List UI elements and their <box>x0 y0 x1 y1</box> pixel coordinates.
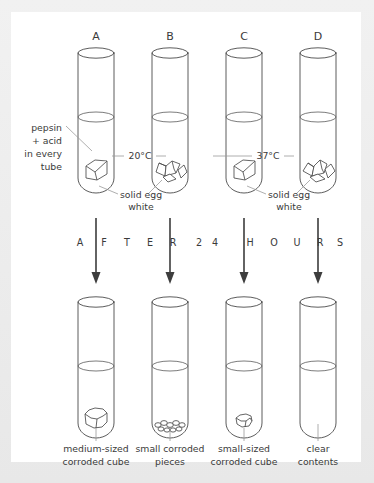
transition-arrow-a <box>92 218 101 284</box>
caption-c-line-1: small-sized <box>218 443 270 454</box>
temperature-37c-group: 37°C <box>213 150 294 161</box>
caption-b-line-1: small corroded <box>135 443 204 454</box>
caption-b-line-2: pieces <box>155 456 185 467</box>
egg-white-label-right: solid egg white <box>247 180 310 212</box>
egg-label-left-leader-a <box>99 186 118 194</box>
temperature-20c: 20°C <box>129 150 152 161</box>
banner-letter-5: 2 <box>196 237 202 248</box>
side-note-line-3: in every <box>24 148 62 159</box>
tube-label-b: B <box>166 30 174 43</box>
egg-cube-a <box>86 160 107 180</box>
caption-after-a: medium-sized corroded cube <box>63 443 130 467</box>
after-24-hours-banner: A F T E R 2 4 H O U R S <box>77 237 343 248</box>
tube-after-d <box>300 297 336 438</box>
tube-after-c <box>226 297 262 438</box>
experiment-diagram: A B C D <box>0 0 374 483</box>
side-note-leader-line <box>66 126 92 151</box>
egg-white-label-left: solid egg white <box>99 180 162 212</box>
caption-c-line-2: corroded cube <box>211 456 278 467</box>
banner-letter-3: E <box>147 237 153 248</box>
side-note-line-4: tube <box>41 161 62 172</box>
side-note-line-2: + acid <box>32 135 62 146</box>
egg-label-right-line-1: solid egg <box>268 189 310 200</box>
egg-label-right-line-2: white <box>276 201 302 212</box>
tube-before-b <box>152 48 188 193</box>
egg-label-right-leader-a <box>247 186 266 194</box>
tube-label-c: C <box>240 30 248 43</box>
tube-label-a: A <box>92 30 100 43</box>
banner-letter-8: O <box>270 237 278 248</box>
caption-after-b: small corroded pieces <box>135 443 204 467</box>
tube-before-d <box>300 48 336 193</box>
banner-letter-7: H <box>246 237 253 248</box>
corroded-pieces-b <box>155 421 185 433</box>
tube-before-c <box>226 48 262 193</box>
corroded-cube-a <box>85 408 107 428</box>
banner-letter-10: R <box>317 237 324 248</box>
tube-after-b <box>152 297 188 438</box>
side-note-line-1: pepsin <box>31 122 62 133</box>
temperature-37c: 37°C <box>257 150 280 161</box>
transition-arrow-c <box>240 218 249 284</box>
banner-letter-9: U <box>293 237 300 248</box>
tube-after-a <box>78 297 114 438</box>
temperature-20c-group: 20°C <box>112 150 166 161</box>
corroded-cube-c <box>236 414 252 427</box>
banner-letter-0: A <box>77 237 84 248</box>
transition-arrow-d <box>314 218 323 284</box>
side-note-pepsin-acid: pepsin + acid in every tube <box>24 122 92 172</box>
banner-letter-4: R <box>170 237 177 248</box>
egg-label-left-line-1: solid egg <box>120 189 162 200</box>
banner-letter-1: F <box>101 237 107 248</box>
banner-letter-6: 4 <box>212 237 218 248</box>
egg-label-left-line-2: white <box>128 201 154 212</box>
egg-pieces-d <box>303 160 335 182</box>
caption-a-line-2: corroded cube <box>63 456 130 467</box>
caption-d-line-2: contents <box>298 456 339 467</box>
egg-cube-c <box>234 160 255 180</box>
banner-letter-2: T <box>123 237 130 248</box>
caption-a-line-1: medium-sized <box>63 443 129 454</box>
banner-letter-11: S <box>337 237 343 248</box>
egg-pieces-b <box>156 161 187 182</box>
tube-label-d: D <box>314 30 322 43</box>
caption-after-c: small-sized corroded cube <box>211 443 278 467</box>
transition-arrow-b <box>166 218 175 284</box>
caption-after-d: clear contents <box>298 443 339 467</box>
tube-before-a <box>78 48 114 193</box>
caption-d-line-1: clear <box>307 443 330 454</box>
